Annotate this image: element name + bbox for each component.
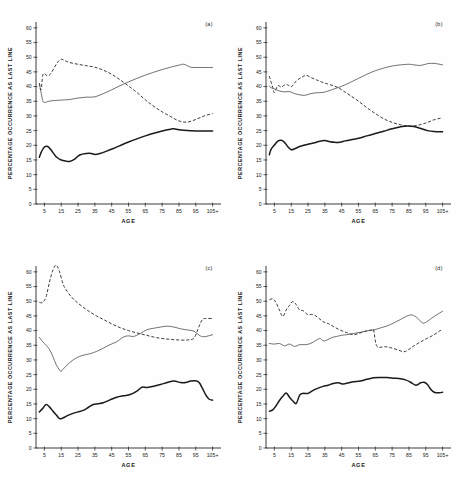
- series-line-dashed: [39, 265, 212, 340]
- series-line-thick-solid: [269, 126, 442, 155]
- x-tick-label: 95: [193, 452, 199, 458]
- y-tick-label: 45: [256, 313, 262, 319]
- y-tick-label: 20: [26, 386, 32, 392]
- chart-d: 0510152025303540455055605152535455565758…: [230, 244, 459, 488]
- series-line-thin-solid: [269, 63, 442, 95]
- y-axis-title: PERCENTAGE OCCURRENCE AS LAST LINE: [7, 291, 13, 423]
- y-tick-label: 40: [26, 83, 32, 89]
- series-line-thick-solid: [269, 377, 442, 411]
- y-tick-label: 45: [256, 69, 262, 75]
- y-tick-label: 30: [256, 357, 262, 363]
- y-tick-label: 5: [29, 186, 32, 192]
- panel-tag: (a): [205, 21, 213, 27]
- y-tick-label: 35: [26, 98, 32, 104]
- x-tick-label: 45: [339, 452, 345, 458]
- y-tick-label: 45: [26, 69, 32, 75]
- y-tick-label: 0: [29, 201, 32, 207]
- series-line-dashed: [269, 299, 442, 352]
- y-tick-label: 25: [26, 128, 32, 134]
- y-tick-label: 60: [26, 25, 32, 31]
- y-tick-label: 20: [256, 142, 262, 148]
- y-axis-title: PERCENTAGE OCCURRENCE AS LAST LINE: [237, 47, 243, 179]
- y-tick-label: 0: [259, 201, 262, 207]
- y-tick-label: 40: [256, 327, 262, 333]
- x-tick-label: 85: [176, 208, 182, 214]
- x-tick-label: 105+: [207, 208, 219, 214]
- x-tick-label: 55: [356, 208, 362, 214]
- x-tick-label: 75: [159, 452, 165, 458]
- x-axis-title: AGE: [351, 218, 365, 224]
- y-tick-label: 15: [256, 401, 262, 407]
- y-axis-title: PERCENTAGE OCCURRENCE AS LAST LINE: [237, 291, 243, 423]
- x-tick-label: 105+: [437, 208, 449, 214]
- x-tick-label: 35: [322, 452, 328, 458]
- series-group: [269, 63, 442, 154]
- series-group: [39, 59, 212, 161]
- panel-tag: (c): [205, 265, 212, 271]
- y-tick-label: 25: [26, 372, 32, 378]
- y-tick-label: 25: [256, 372, 262, 378]
- axes: 0510152025303540455055605152535455565758…: [26, 22, 221, 214]
- x-tick-label: 95: [423, 208, 429, 214]
- y-tick-label: 0: [259, 445, 262, 451]
- chart-a: 0510152025303540455055605152535455565758…: [0, 0, 229, 244]
- y-tick-label: 55: [256, 283, 262, 289]
- x-tick-label: 15: [288, 208, 294, 214]
- y-tick-label: 5: [259, 430, 262, 436]
- x-tick-label: 85: [406, 452, 412, 458]
- x-tick-label: 25: [305, 452, 311, 458]
- panel-d: 0510152025303540455055605152535455565758…: [230, 244, 459, 488]
- x-tick-label: 65: [372, 208, 378, 214]
- y-tick-label: 10: [256, 416, 262, 422]
- panel-tag: (b): [435, 21, 443, 27]
- y-tick-label: 15: [26, 157, 32, 163]
- y-tick-label: 35: [256, 342, 262, 348]
- y-tick-label: 0: [29, 445, 32, 451]
- x-tick-label: 25: [75, 452, 81, 458]
- y-tick-label: 5: [259, 186, 262, 192]
- y-axis-title: PERCENTAGE OCCURRENCE AS LAST LINE: [7, 47, 13, 179]
- x-tick-label: 65: [142, 208, 148, 214]
- series-group: [269, 299, 442, 412]
- y-tick-label: 30: [26, 357, 32, 363]
- chart-b: 0510152025303540455055605152535455565758…: [230, 0, 459, 244]
- y-tick-label: 10: [26, 416, 32, 422]
- series-line-thick-solid: [39, 381, 212, 419]
- panel-tag: (d): [435, 265, 443, 271]
- y-tick-label: 40: [26, 327, 32, 333]
- y-tick-label: 55: [256, 39, 262, 45]
- x-tick-label: 5: [43, 208, 46, 214]
- y-tick-label: 15: [26, 401, 32, 407]
- y-tick-label: 20: [26, 142, 32, 148]
- y-tick-label: 55: [26, 39, 32, 45]
- x-tick-label: 15: [58, 452, 64, 458]
- y-tick-label: 20: [256, 386, 262, 392]
- y-tick-label: 5: [29, 430, 32, 436]
- y-tick-label: 50: [256, 54, 262, 60]
- x-axis-title: AGE: [121, 462, 135, 468]
- y-tick-label: 50: [26, 298, 32, 304]
- y-tick-label: 50: [26, 54, 32, 60]
- y-tick-label: 15: [256, 157, 262, 163]
- y-tick-label: 60: [26, 269, 32, 275]
- x-tick-label: 15: [58, 208, 64, 214]
- y-tick-label: 30: [26, 113, 32, 119]
- x-tick-label: 105+: [437, 452, 449, 458]
- axes: 0510152025303540455055605152535455565758…: [256, 266, 451, 458]
- x-tick-label: 5: [43, 452, 46, 458]
- series-group: [39, 265, 212, 419]
- y-tick-label: 30: [256, 113, 262, 119]
- x-tick-label: 15: [288, 452, 294, 458]
- y-tick-label: 35: [256, 98, 262, 104]
- y-tick-label: 40: [256, 83, 262, 89]
- axes: 0510152025303540455055605152535455565758…: [256, 22, 451, 214]
- figure-multipanel-line-charts: 0510152025303540455055605152535455565758…: [0, 0, 459, 488]
- series-line-dashed: [39, 59, 212, 122]
- x-tick-label: 55: [126, 208, 132, 214]
- x-tick-label: 75: [389, 452, 395, 458]
- x-tick-label: 75: [389, 208, 395, 214]
- x-tick-label: 105+: [207, 452, 219, 458]
- panel-a: 0510152025303540455055605152535455565758…: [0, 0, 229, 244]
- series-line-thin-solid: [39, 64, 212, 102]
- x-tick-label: 65: [372, 452, 378, 458]
